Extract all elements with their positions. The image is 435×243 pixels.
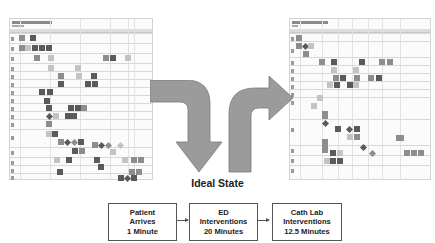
process-step [47,89,53,95]
curved-arrow-down-icon [150,80,230,180]
process-step [337,158,343,164]
step-title: Patient [130,208,155,218]
swimlane [290,41,430,42]
process-step [32,45,38,51]
swimlane [290,73,430,74]
step-duration: 20 Minutes [204,227,243,237]
process-step [78,139,84,145]
process-step [353,67,359,73]
current-state-process-map [9,18,153,180]
swimlane [10,165,152,166]
process-step [387,59,393,65]
process-step [46,45,52,51]
process-step [48,65,54,71]
process-step [354,126,360,132]
process-step [333,75,339,81]
process-step [110,55,116,61]
process-step [53,113,59,119]
process-step [71,113,77,119]
step-ed-interventions: ED Interventions 20 Minutes [189,203,258,241]
process-step [335,126,341,132]
curved-arrow-right-icon [225,74,295,174]
swimlane [10,87,152,88]
process-step [411,150,417,156]
swimlane [10,103,152,104]
process-step [138,157,144,163]
swimlane [290,33,430,34]
process-step [94,157,100,163]
step-title: ED [218,208,229,218]
ideal-state-label: Ideal State [0,177,435,189]
swimlane [10,79,152,80]
process-step [39,89,45,95]
process-step [103,55,109,61]
swimlane [290,165,430,166]
swimlane [290,65,430,66]
process-step [322,139,328,153]
process-step [353,82,359,88]
swimlane [10,119,152,120]
process-step [354,75,360,81]
process-step [354,134,360,140]
process-step [331,67,337,73]
swimlane [290,57,430,58]
process-step [331,59,337,65]
process-step [337,150,343,156]
map-title [12,21,52,24]
step-subtitle: Interventions [283,217,331,227]
process-step [404,150,410,156]
process-step [72,148,78,154]
decision-diamond [71,139,78,146]
process-step [66,157,72,163]
process-step [39,45,45,51]
process-step [44,98,50,104]
swimlane [10,95,152,96]
process-step [19,35,25,41]
swimlane [10,129,152,130]
process-step [330,150,336,156]
process-step [359,59,365,65]
swimlane [10,43,152,44]
process-step [334,82,340,88]
process-step [125,55,131,61]
process-step [131,157,137,163]
flow-arrow-icon [257,220,269,221]
process-step [91,73,97,79]
flow-arrow-icon [176,220,188,221]
process-step [376,75,382,81]
swimlane [10,111,152,112]
swimlane [10,71,152,72]
step-duration: 1 Minute [127,227,158,237]
process-step [76,73,82,79]
swimlane [290,119,430,120]
process-step [330,158,336,164]
process-step [46,105,52,111]
process-step [75,65,81,71]
process-step [319,59,325,65]
process-step [122,157,128,163]
process-step [46,121,52,127]
process-step [79,148,85,154]
process-step [25,45,31,51]
swimlane [10,63,152,64]
process-step [308,43,314,49]
map-subtitle [292,25,298,27]
process-step [311,103,317,109]
process-step [58,73,64,79]
process-step [48,55,54,61]
process-step [85,81,91,87]
process-step [327,82,333,88]
process-step [57,169,63,175]
process-step [92,81,98,87]
process-step [30,35,36,41]
map-subtitle [12,25,24,27]
process-step [52,131,58,137]
swimlane [10,33,152,34]
process-step [340,75,346,81]
step-duration: 12.5 Minutes [284,227,330,237]
process-step [58,81,64,87]
step-patient-arrives: Patient Arrives 1 Minute [108,203,177,241]
step-subtitle: Interventions [200,217,248,227]
process-step [54,157,60,163]
process-step [296,35,302,41]
